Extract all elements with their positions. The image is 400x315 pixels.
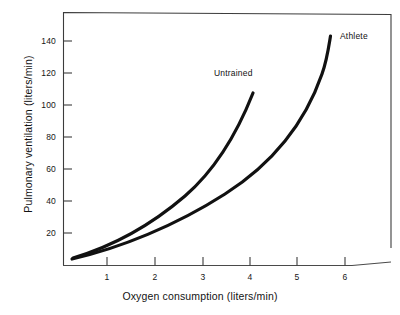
x-axis-line [63, 262, 391, 266]
x-tick-label-2: 2 [153, 272, 158, 282]
y-axis-ticks [64, 41, 73, 233]
x-tick-label-1: 1 [105, 272, 110, 282]
chart-figure: 20 40 60 80 100 120 140 1 2 3 4 5 6 Untr… [0, 0, 400, 315]
x-tick-label-6: 6 [343, 272, 348, 282]
x-tick-label-4: 4 [248, 272, 253, 282]
series-label-athlete: Athlete [340, 31, 368, 41]
x-axis-title: Oxygen consumption (liters/min) [0, 290, 400, 302]
x-tick-label-5: 5 [295, 272, 300, 282]
plot-frame [64, 13, 392, 266]
curve-untrained [73, 93, 253, 258]
y-axis-title: Pulmonary ventilation (liters/min) [22, 9, 34, 259]
x-axis-ticks [107, 257, 345, 266]
plot-canvas [0, 0, 400, 315]
series-label-untrained: Untrained [214, 68, 253, 78]
curve-athlete [72, 36, 331, 259]
x-tick-label-3: 3 [201, 272, 206, 282]
